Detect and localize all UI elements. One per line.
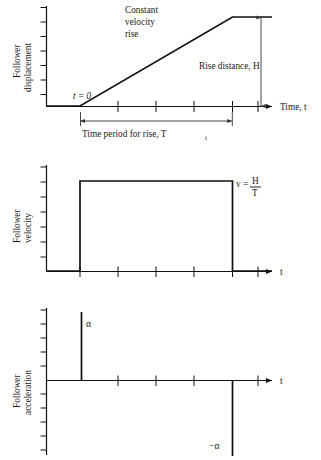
displacement-y-ticks (41, 8, 47, 95)
velocity-equation-numerator: H (252, 176, 259, 186)
time-period-subscript: i (205, 134, 207, 141)
velocity-equation-denominator: T (252, 188, 258, 198)
displacement-y-axis-label-line2: displacement (23, 43, 33, 92)
rise-distance-label: Rise distance, H (199, 61, 260, 71)
alpha-positive-label: α (86, 318, 91, 329)
displacement-y-axis-label-line1: Follower (12, 44, 22, 78)
acceleration-y-axis-label-line2: acceleration (23, 370, 33, 415)
velocity-y-axis-label-line2: velocity (23, 213, 33, 243)
velocity-y-ticks (41, 167, 47, 257)
acceleration-y-ticks (41, 310, 47, 450)
panel-displacement: Follower displacement Time, t Constant v… (12, 5, 307, 141)
note-velocity: velocity (125, 17, 155, 27)
velocity-x-axis-label: t (280, 267, 283, 277)
velocity-equation-lhs: v = (236, 179, 248, 189)
velocity-y-axis-label-line1: Follower (12, 209, 22, 243)
displacement-x-axis-label: Time, t (280, 102, 307, 112)
velocity-curve (47, 181, 273, 271)
cam-follower-motion-figure: Follower displacement Time, t Constant v… (0, 0, 321, 460)
note-rise: rise (125, 29, 138, 39)
acceleration-y-axis-label-line1: Follower (12, 374, 22, 408)
time-period-label: Time period for rise, T (82, 129, 167, 139)
origin-label: t = 0 (73, 91, 92, 101)
acceleration-x-axis-label: t (280, 376, 283, 386)
panel-velocity: Follower velocity t v = H T (12, 165, 283, 277)
note-constant: Constant (125, 5, 158, 15)
alpha-negative-label: −α (209, 440, 219, 451)
velocity-equation: v = H T (236, 176, 261, 198)
panel-acceleration: Follower acceleration t α −α (12, 308, 283, 456)
